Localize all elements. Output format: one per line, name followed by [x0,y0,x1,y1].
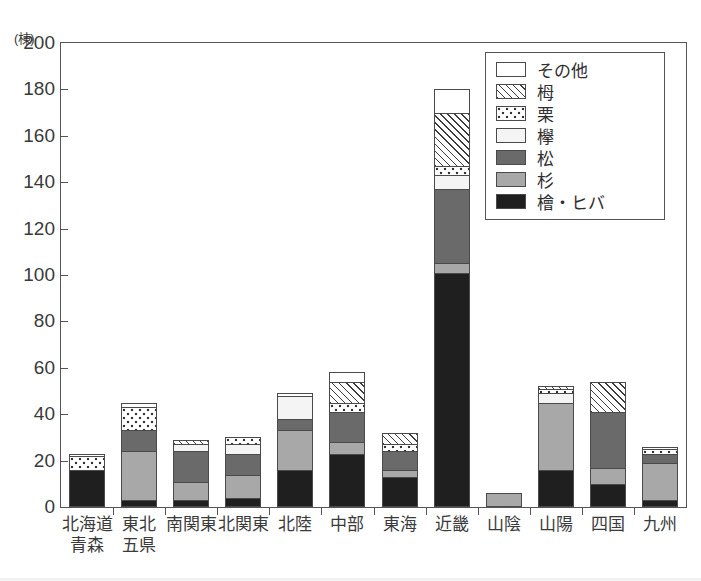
bar-segment [434,89,470,112]
bar-segment [69,470,105,507]
bar-segment [590,382,626,412]
bar-segment [277,396,313,419]
bar-segment [538,403,574,470]
stacked-bar[interactable] [277,393,313,507]
legend-item[interactable]: 檜・ヒバ [496,191,656,212]
bar-segment [225,444,261,453]
legend-swatch-icon [496,84,526,99]
bar-segment [434,263,470,272]
bar-segment [121,430,157,451]
bar-segment [590,412,626,468]
legend: その他栂栗欅松杉檜・ヒバ [485,52,665,220]
stacked-bar[interactable] [329,372,365,507]
bar-segment [642,454,678,463]
bar-segment [225,437,261,444]
bar-segment [590,484,626,507]
bar-segment [225,454,261,475]
stacked-bar[interactable] [382,433,418,507]
stacked-bar[interactable] [538,386,574,507]
bar-segment [382,451,418,470]
x-axis-label: 九州 [614,514,701,535]
legend-item[interactable]: 杉 [496,169,656,190]
bar-segment [277,470,313,507]
y-tick-label: 60 [0,357,55,379]
bar-segment [329,382,365,403]
bar-segment [225,498,261,507]
bar-segment [382,470,418,477]
bar-slot [321,43,373,507]
legend-item[interactable]: 欅 [496,125,656,146]
bar-slot [165,43,217,507]
bar-segment [277,430,313,469]
y-tick-label: 160 [0,125,55,147]
bar-segment [173,444,209,451]
bar-slot [61,43,113,507]
legend-swatch-icon [496,106,526,121]
legend-swatch-icon [496,62,526,77]
legend-swatch-icon [496,194,526,209]
y-tick-label: 80 [0,310,55,332]
bar-segment [382,433,418,445]
bar-segment [434,113,470,166]
bar-slot [113,43,165,507]
bar-slot [426,43,478,507]
stacked-bar[interactable] [590,382,626,507]
y-tick-label: 20 [0,450,55,472]
stacked-bar[interactable] [434,89,470,507]
bar-slot [217,43,269,507]
legend-item[interactable]: 栂 [496,81,656,102]
legend-swatch-icon [496,128,526,143]
bar-segment [173,451,209,481]
bar-segment [69,456,105,470]
bar-slot [374,43,426,507]
bar-segment [434,175,470,189]
y-tick-label: 120 [0,218,55,240]
bar-segment [642,500,678,507]
legend-item[interactable]: 松 [496,147,656,168]
y-tick-label: 140 [0,171,55,193]
bar-segment [121,407,157,430]
bar-segment [590,468,626,484]
bar-segment [486,493,522,507]
legend-item[interactable]: 栗 [496,103,656,124]
legend-item[interactable]: その他 [496,59,656,80]
bar-slot [269,43,321,507]
stacked-bar[interactable] [173,440,209,507]
bar-segment [434,166,470,175]
bar-segment [538,470,574,507]
bar-segment [173,482,209,501]
y-tick-label: 40 [0,403,55,425]
legend-swatch-icon [496,150,526,165]
y-tick-label: 100 [0,264,55,286]
bar-segment [173,500,209,507]
stacked-bar[interactable] [121,403,157,507]
bar-segment [225,475,261,498]
stacked-bar[interactable] [225,437,261,507]
bar-segment [121,451,157,500]
bar-segment [121,500,157,507]
bar-segment [642,463,678,500]
bar-segment [329,454,365,507]
bar-segment [329,403,365,412]
bar-segment [329,372,365,381]
legend-item-label: 檜・ヒバ [537,189,605,214]
bar-segment [277,419,313,431]
stacked-bar-chart: (棟) 020406080100120140160180200 北海道青森東北五… [0,0,701,581]
bar-segment [434,189,470,263]
bar-segment [329,442,365,454]
stacked-bar[interactable] [642,447,678,507]
bar-segment [329,412,365,442]
stacked-bar[interactable] [69,454,105,507]
legend-swatch-icon [496,172,526,187]
y-tick-label: 180 [0,78,55,100]
bar-segment [538,393,574,402]
y-tick-label: 200 [0,32,55,54]
bar-segment [382,444,418,451]
bar-segment [382,477,418,507]
bar-segment [434,273,470,507]
stacked-bar[interactable] [486,493,522,507]
